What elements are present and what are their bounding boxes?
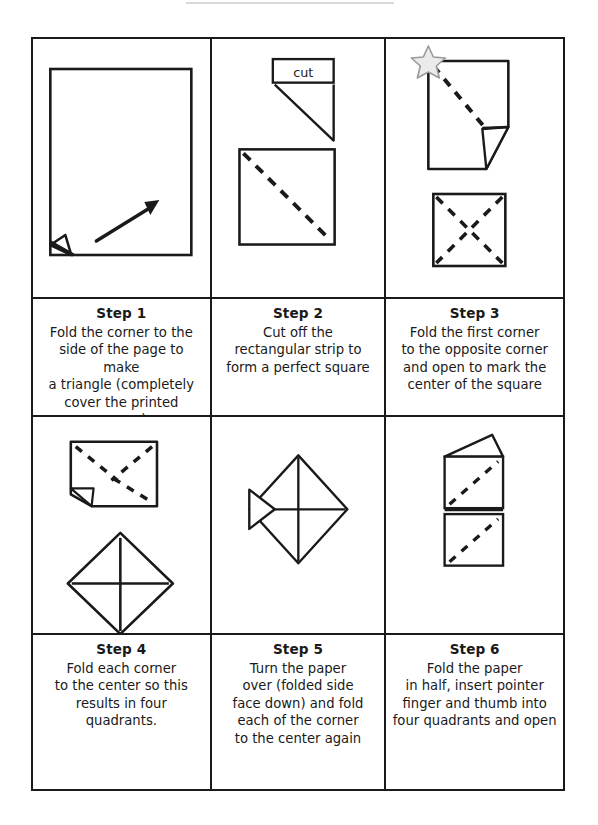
step-3-caption-cell: Step 3 Fold the first corner to the oppo… <box>386 297 563 415</box>
rectangle-with-x-and-diamond-with-cross-icon <box>33 417 210 633</box>
folded-in-half-with-dashed-diagonals-icon <box>386 417 563 633</box>
step-1-caption: Step 1 Fold the corner to the side of th… <box>33 299 210 415</box>
step-4-title: Step 4 <box>39 641 204 659</box>
step-4-body: Fold each corner to the center so this r… <box>39 660 204 730</box>
step-5-title: Step 5 <box>218 641 379 659</box>
diamond-with-cross-and-flap-icon <box>212 417 385 633</box>
step-6-caption: Step 6 Fold the paper in half, insert po… <box>386 635 563 730</box>
step-5-caption-cell: Step 5 Turn the paper over (folded side … <box>210 633 387 791</box>
step-4-caption-cell: Step 4 Fold each corner to the center so… <box>33 633 210 791</box>
step-2-figure-cell: cut <box>210 39 387 297</box>
step-1-figure-cell <box>33 39 210 297</box>
square-with-star-and-square-with-x-icon <box>386 39 563 297</box>
step-3-body: Fold the first corner to the opposite co… <box>392 324 557 394</box>
step-2-caption-cell: Step 2 Cut off the rectangular strip to … <box>210 297 387 415</box>
step-5-body: Turn the paper over (folded side face do… <box>218 660 379 747</box>
step-6-caption-cell: Step 6 Fold the paper in half, insert po… <box>386 633 563 791</box>
step-4-figure-cell <box>33 415 210 633</box>
step-1-body: Fold the corner to the side of the page … <box>39 324 204 415</box>
step-2-title: Step 2 <box>218 305 379 323</box>
step-6-body: Fold the paper in half, insert pointer f… <box>392 660 557 730</box>
step-3-title: Step 3 <box>392 305 557 323</box>
step-3-caption: Step 3 Fold the first corner to the oppo… <box>386 299 563 394</box>
step-2-caption: Step 2 Cut off the rectangular strip to … <box>212 299 385 376</box>
top-rule-divider <box>186 2 394 4</box>
page-with-arrow-and-folded-corner-icon <box>33 39 210 297</box>
steps-grid: cut Step 1 <box>31 37 565 791</box>
step-4-caption: Step 4 Fold each corner to the center so… <box>33 635 210 730</box>
step-1-title: Step 1 <box>39 305 204 323</box>
cut-strip-and-square-icon: cut <box>212 39 385 297</box>
cut-label: cut <box>293 65 313 80</box>
instruction-sheet: cut Step 1 <box>0 0 598 825</box>
step-6-figure-cell <box>386 415 563 633</box>
step-1-caption-cell: Step 1 Fold the corner to the side of th… <box>33 297 210 415</box>
step-3-figure-cell <box>386 39 563 297</box>
step-5-caption: Step 5 Turn the paper over (folded side … <box>212 635 385 747</box>
step-2-body: Cut off the rectangular strip to form a … <box>218 324 379 376</box>
step-6-title: Step 6 <box>392 641 557 659</box>
step-5-figure-cell <box>210 415 387 633</box>
